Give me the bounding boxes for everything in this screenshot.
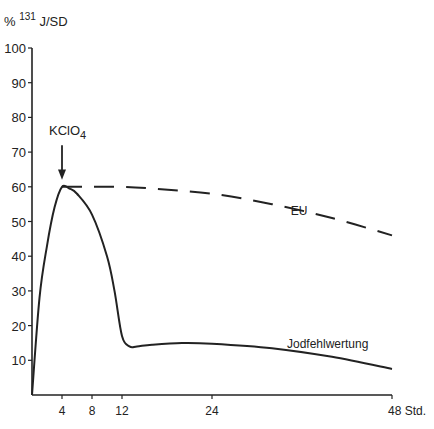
- arrow-down-icon: [58, 169, 66, 179]
- x-tick-label: 24: [205, 404, 219, 418]
- y-label-main: J/SD: [40, 14, 68, 29]
- annotation-kclo4: KClO4: [49, 123, 86, 141]
- annotations: KClO4: [49, 123, 86, 180]
- x-tick-label: 48 Std.: [388, 404, 426, 418]
- y-label-percent: %: [4, 14, 16, 29]
- x-tick-label: 8: [89, 404, 96, 418]
- chart: 102030405060708090100 48122448 Std. EUJo…: [0, 0, 434, 429]
- y-axis-label: % 131 J/SD: [4, 8, 68, 29]
- y-label-superscript: 131: [19, 11, 36, 22]
- y-tick-label: 100: [4, 41, 26, 56]
- y-tick-label: 30: [12, 284, 26, 299]
- x-tick-label: 4: [59, 404, 66, 418]
- y-tick-label: 60: [12, 180, 26, 195]
- series-label-eu: EU: [291, 204, 308, 218]
- y-tick-label: 10: [12, 353, 26, 368]
- y-tick-label: 40: [12, 249, 26, 264]
- x-axis: 48122448 Std.: [32, 395, 426, 418]
- series-group: EUJodfehlwertung: [32, 186, 392, 395]
- y-tick-label: 70: [12, 145, 26, 160]
- x-tick-label: 12: [115, 404, 129, 418]
- series-jodfehlwertung-line: [32, 186, 392, 395]
- y-axis: 102030405060708090100: [4, 41, 32, 395]
- y-tick-label: 50: [12, 215, 26, 230]
- series-eu-line: [62, 187, 392, 236]
- y-tick-label: 90: [12, 76, 26, 91]
- y-tick-label: 80: [12, 110, 26, 125]
- series-label-jodfehlwertung: Jodfehlwertung: [287, 337, 368, 351]
- y-tick-label: 20: [12, 319, 26, 334]
